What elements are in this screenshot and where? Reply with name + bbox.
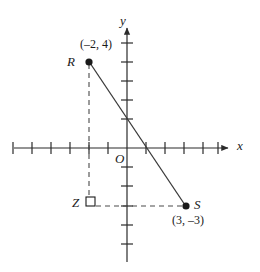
point-label-r: R	[67, 55, 75, 68]
point-label-s: S	[194, 198, 201, 211]
origin-label: O	[115, 152, 124, 165]
point-label-z: Z	[72, 196, 79, 209]
y-axis	[121, 28, 133, 262]
coordinate-plane-graphic	[0, 0, 260, 272]
point-marker-r	[85, 58, 92, 65]
point-coord-s: (3, –3)	[172, 214, 204, 226]
point-marker-z	[86, 197, 95, 206]
y-axis-label: y	[120, 14, 126, 27]
x-axis-label: x	[237, 139, 243, 152]
segment-rs-solid	[90, 63, 185, 205]
figure-canvas: y x O R (–2, 4) S (3, –3) Z	[0, 0, 260, 272]
point-coord-r: (–2, 4)	[80, 38, 112, 50]
point-marker-s	[182, 202, 189, 209]
